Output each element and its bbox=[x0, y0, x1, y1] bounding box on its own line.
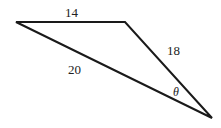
angle-label-theta: θ bbox=[173, 85, 179, 99]
side-label-bottom: 20 bbox=[68, 62, 81, 77]
triangle-diagram: 14 18 20 θ bbox=[0, 0, 221, 128]
side-label-top: 14 bbox=[65, 5, 79, 20]
side-label-right: 18 bbox=[167, 43, 180, 58]
triangle-shape bbox=[16, 22, 212, 118]
